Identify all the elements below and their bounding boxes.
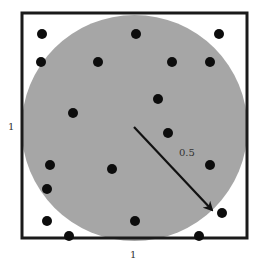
sample-point — [130, 216, 140, 226]
sample-point — [93, 57, 103, 67]
sample-point — [37, 29, 47, 39]
sample-point — [64, 231, 74, 241]
sample-point — [153, 94, 163, 104]
sample-point — [205, 57, 215, 67]
bottom-side-length-label: 1 — [130, 249, 136, 260]
sample-point — [107, 164, 117, 174]
sample-point — [42, 184, 52, 194]
sample-point — [163, 128, 173, 138]
monte-carlo-diagram — [0, 0, 260, 264]
sample-point — [45, 160, 55, 170]
sample-point — [42, 216, 52, 226]
sample-point — [36, 57, 46, 67]
sample-point — [217, 208, 227, 218]
sample-point — [68, 108, 78, 118]
sample-point — [194, 231, 204, 241]
left-side-length-label: 1 — [8, 121, 14, 132]
sample-point — [205, 160, 215, 170]
sample-point — [214, 29, 224, 39]
sample-point — [131, 29, 141, 39]
radius-label: 0.5 — [179, 147, 195, 158]
sample-point — [167, 57, 177, 67]
